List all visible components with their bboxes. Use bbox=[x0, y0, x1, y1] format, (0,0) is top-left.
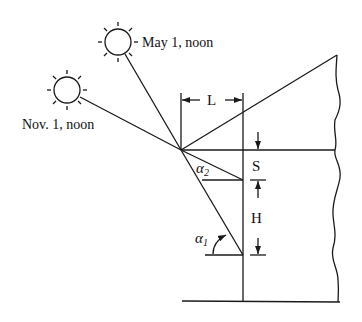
sun-icon-nov bbox=[47, 70, 87, 110]
break-line bbox=[332, 55, 340, 302]
angle-label-alpha1: α1 bbox=[195, 230, 208, 248]
overhang-diagram: May 1, noon Nov. 1, noon L S H α2 α1 bbox=[0, 0, 362, 322]
sun-label-may: May 1, noon bbox=[142, 35, 213, 50]
ray-alpha1 bbox=[181, 150, 243, 255]
roof-line bbox=[181, 55, 337, 150]
sun-icon-may bbox=[98, 22, 138, 62]
ground-line bbox=[182, 301, 340, 302]
sun-label-nov: Nov. 1, noon bbox=[22, 117, 94, 132]
alpha1-arc bbox=[213, 235, 226, 254]
dimension-label-l: L bbox=[207, 92, 216, 108]
dimension-label-s: S bbox=[252, 158, 260, 174]
dimension-label-h: H bbox=[251, 210, 262, 226]
